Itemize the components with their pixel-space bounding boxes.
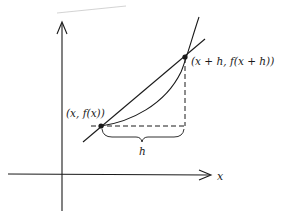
secant-diagram: x (x, f(x)) (x + h, f(x + h)) h: [0, 0, 281, 221]
x-axis: [8, 170, 211, 180]
point-label-x-fx: (x, f(x)): [66, 107, 105, 119]
function-curve: [101, 17, 199, 126]
point-label-xh-fxh: (x + h, f(x + h)): [191, 55, 274, 67]
x-axis-label: x: [217, 170, 224, 183]
scan-artifact-line: [57, 6, 126, 13]
diagram-canvas: x (x, f(x)) (x + h, f(x + h)) h: [0, 0, 281, 221]
point-x-fx: [98, 123, 103, 128]
increment-label-h: h: [139, 145, 146, 157]
increment-brace: [102, 129, 184, 142]
point-xh-fxh: [182, 54, 187, 59]
